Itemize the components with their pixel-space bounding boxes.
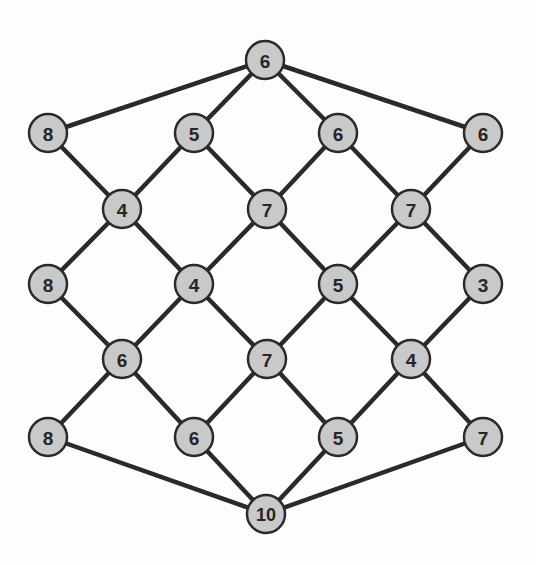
node-label: 8 <box>43 124 54 145</box>
node-label: 6 <box>189 428 200 449</box>
node-label: 6 <box>333 124 344 145</box>
node-label: 7 <box>406 200 417 221</box>
graph-node: 6 <box>175 418 213 456</box>
graph-edge <box>265 60 483 133</box>
diagram-canvas: 685664778453674865710 <box>0 0 536 565</box>
graph-node: 8 <box>29 418 67 456</box>
graph-node: 4 <box>175 265 213 303</box>
node-label: 3 <box>478 275 489 296</box>
graph-node: 4 <box>103 190 141 228</box>
node-label: 7 <box>262 200 273 221</box>
node-label: 4 <box>189 275 200 296</box>
graph-node: 5 <box>175 114 213 152</box>
node-label: 7 <box>262 350 273 371</box>
graph-node: 5 <box>319 418 357 456</box>
node-label: 6 <box>260 51 271 72</box>
node-label: 5 <box>189 124 200 145</box>
node-label: 10 <box>256 505 276 525</box>
graph-node: 8 <box>29 114 67 152</box>
node-label: 4 <box>406 350 417 371</box>
node-label: 8 <box>43 428 54 449</box>
node-label: 8 <box>43 275 54 296</box>
node-label: 4 <box>117 200 128 221</box>
edge-layer <box>48 60 483 514</box>
lattice-graph: 685664778453674865710 <box>0 0 536 565</box>
graph-node: 7 <box>464 418 502 456</box>
graph-node: 7 <box>248 340 286 378</box>
graph-node: 7 <box>392 190 430 228</box>
node-label: 6 <box>478 124 489 145</box>
graph-node: 6 <box>464 114 502 152</box>
graph-node: 6 <box>246 41 284 79</box>
graph-node: 8 <box>29 265 67 303</box>
graph-edge <box>266 437 483 514</box>
graph-edge <box>48 437 266 514</box>
graph-node: 10 <box>247 495 285 533</box>
graph-node: 7 <box>248 190 286 228</box>
graph-node: 6 <box>319 114 357 152</box>
graph-node: 3 <box>464 265 502 303</box>
node-label: 5 <box>333 275 344 296</box>
graph-node: 5 <box>319 265 357 303</box>
node-label: 6 <box>117 350 128 371</box>
node-label: 7 <box>478 428 489 449</box>
graph-node: 6 <box>103 340 141 378</box>
node-label: 5 <box>333 428 344 449</box>
graph-node: 4 <box>392 340 430 378</box>
